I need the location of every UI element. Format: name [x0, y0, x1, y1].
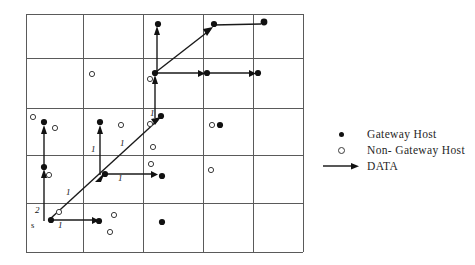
non-gateway-node [148, 161, 153, 166]
gateway-node [102, 171, 108, 177]
gateway-node [155, 21, 161, 27]
gateway-node [159, 173, 165, 179]
arrowhead-mid-right [151, 171, 158, 178]
cost-label-1d: 1 [120, 138, 125, 148]
arrowhead-left-up2 [41, 125, 47, 134]
grid-lines [26, 14, 303, 252]
legend-label-non-gateway: Non- Gateway Host [367, 144, 465, 156]
arrowhead-mid-up [97, 125, 103, 134]
edge-far-right-top [213, 24, 261, 25]
gateway-node [261, 19, 268, 26]
legend-item-data: DATA [322, 160, 398, 172]
gateway-node [159, 219, 165, 225]
arrow-icon [322, 161, 360, 171]
arrowhead-junction-up [154, 26, 160, 35]
non-gateway-node [56, 209, 61, 214]
non-gateway-node [107, 229, 112, 234]
edge-main-diagonal [50, 120, 158, 219]
gateway-node [41, 164, 47, 170]
non-gateway-node [150, 144, 155, 149]
non-gateway-node [208, 167, 213, 172]
gateway-node [217, 122, 223, 128]
source-label: s [31, 220, 34, 230]
legend-item-gateway: Gateway Host [322, 128, 437, 140]
non-gateway-node [89, 71, 94, 76]
network-routing-diagram: s 2 1 1 1 1 1 1 Gateway Host Non- Gatewa… [0, 0, 475, 265]
non-gateway-node [147, 121, 152, 126]
non-gateway-node [118, 122, 123, 127]
open-circle-icon [322, 147, 360, 154]
cost-label-1c: 1 [91, 144, 96, 154]
gateway-node [211, 21, 217, 27]
non-gateway-node [30, 114, 35, 119]
arrow-glyph [322, 161, 360, 171]
non-gateway-node [147, 76, 152, 81]
filled-dot-icon [322, 132, 360, 137]
gateway-node-source [48, 217, 54, 223]
gateway-node [97, 119, 103, 125]
non-gateway-node [52, 125, 57, 130]
arrowhead-s-up [41, 169, 47, 178]
cost-label-1e: 1 [118, 173, 123, 183]
cost-labels: s 2 1 1 1 1 1 1 [31, 108, 155, 230]
cost-label-1a: 1 [58, 220, 63, 230]
cost-label-1b: 1 [66, 187, 71, 197]
non-gateway-node [111, 212, 116, 217]
cost-label-2: 2 [35, 205, 40, 215]
legend-label-data: DATA [367, 160, 398, 172]
non-gateway-node [46, 172, 51, 177]
gateway-node [255, 70, 261, 76]
non-gateway-node [209, 122, 214, 127]
gateway-node [41, 119, 47, 125]
legend-label-gateway: Gateway Host [367, 128, 437, 140]
edge-junction-diagonal [156, 30, 210, 72]
gateway-node-junction [152, 70, 158, 76]
legend-item-non-gateway: Non- Gateway Host [322, 144, 465, 156]
gateway-node [204, 70, 210, 76]
gateway-node [96, 218, 102, 224]
cost-label-1f: 1 [150, 108, 155, 118]
gateway-node [158, 113, 164, 119]
